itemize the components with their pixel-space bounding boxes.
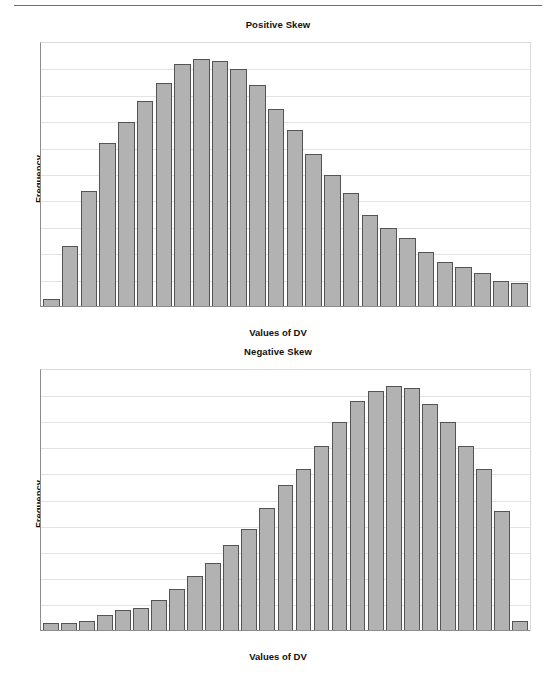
bar (118, 122, 135, 307)
chart-negative-skew: Negative Skew Frequency Values of DV (0, 345, 556, 681)
bar (241, 529, 257, 631)
bar (205, 563, 221, 631)
bar (230, 69, 247, 307)
bar (223, 545, 239, 631)
bar (174, 64, 191, 307)
bar (404, 388, 420, 631)
bar (278, 485, 294, 631)
bar (62, 246, 79, 307)
bar (249, 85, 266, 307)
bar (187, 576, 203, 631)
bar (332, 422, 348, 631)
bar (324, 175, 341, 307)
plot-area (40, 42, 531, 307)
chart-plot-body: Frequency (0, 32, 556, 325)
x-axis-label: Values of DV (0, 326, 556, 340)
bar (455, 267, 472, 307)
bar (296, 469, 312, 631)
bar (97, 615, 113, 631)
bar (368, 391, 384, 631)
bar (476, 469, 492, 631)
bar (137, 101, 154, 307)
chart-plot-body: Frequency (0, 359, 556, 649)
chart-title: Positive Skew (0, 18, 556, 32)
x-axis-line (41, 630, 530, 631)
plot-area (40, 369, 531, 631)
chart-positive-skew: Positive Skew Frequency Values of DV (0, 18, 556, 343)
bar (305, 154, 322, 307)
bar (494, 511, 510, 631)
bar (212, 61, 229, 307)
bar (350, 401, 366, 631)
bar (493, 281, 510, 307)
bar (511, 283, 528, 307)
bar (437, 262, 454, 307)
header-rule (14, 5, 542, 6)
bar (440, 422, 456, 631)
x-axis-label: Values of DV (0, 650, 556, 664)
bar (399, 238, 416, 307)
chart-title: Negative Skew (0, 345, 556, 359)
x-axis-line (41, 306, 530, 307)
bar (133, 608, 149, 631)
bar (422, 404, 438, 631)
bar (151, 600, 167, 631)
bar (362, 215, 379, 307)
bar (380, 228, 397, 307)
bar (169, 589, 185, 631)
bar (314, 446, 330, 631)
bar (193, 59, 210, 307)
bar (287, 130, 304, 307)
bar (474, 273, 491, 307)
bar (418, 252, 435, 307)
bar (259, 508, 275, 631)
bar (99, 143, 116, 307)
bar (458, 446, 474, 631)
bar (268, 109, 285, 307)
bar (386, 386, 402, 631)
bar (81, 191, 98, 307)
bar (156, 83, 173, 307)
bar (115, 610, 131, 631)
bar (343, 193, 360, 307)
bar-series (41, 370, 530, 631)
bar-series (41, 43, 530, 307)
